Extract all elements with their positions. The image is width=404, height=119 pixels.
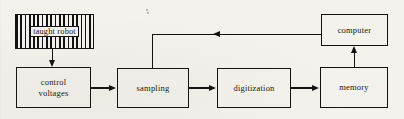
edge-computer-to-sampling-horizontal xyxy=(152,34,321,35)
edge-digitization-to-memory-line xyxy=(291,87,312,88)
node-control-voltages-label-line2: voltages xyxy=(39,88,69,99)
node-taught-robot-label: taught robot xyxy=(30,26,79,38)
edge-robot-to-control-arrowhead xyxy=(49,60,55,67)
node-memory-label: memory xyxy=(339,82,369,93)
node-computer[interactable]: computer xyxy=(321,14,388,46)
edge-computer-to-sampling-arrowhead xyxy=(213,31,220,37)
node-control-voltages-label-line1: control xyxy=(41,77,66,88)
edge-control-to-sampling-arrowhead xyxy=(109,85,116,91)
node-digitization[interactable]: digitization xyxy=(217,68,291,108)
edge-sampling-to-digitization-arrowhead xyxy=(209,85,216,91)
node-computer-label: computer xyxy=(338,25,372,36)
edge-memory-to-computer-line xyxy=(354,53,355,67)
edge-digitization-to-memory-arrowhead xyxy=(312,85,319,91)
edge-control-to-sampling-line xyxy=(91,87,110,88)
edge-sampling-to-digitization-line xyxy=(189,87,209,88)
node-digitization-label: digitization xyxy=(233,83,274,94)
node-sampling[interactable]: sampling xyxy=(117,68,189,108)
block-diagram: taught robot control voltages sampling d… xyxy=(0,0,404,119)
node-memory[interactable]: memory xyxy=(320,67,388,108)
paper-speck xyxy=(147,12,149,14)
node-taught-robot[interactable]: taught robot xyxy=(15,14,94,49)
node-sampling-label: sampling xyxy=(137,83,170,94)
edge-computer-to-sampling-vertical xyxy=(152,34,153,69)
paper-speck xyxy=(146,9,148,11)
edge-memory-to-computer-arrowhead xyxy=(351,46,357,53)
node-control-voltages[interactable]: control voltages xyxy=(16,67,91,108)
